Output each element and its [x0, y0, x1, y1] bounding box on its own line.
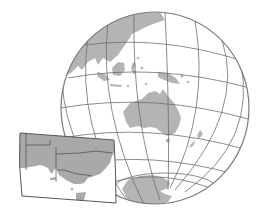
inset-land-tasmania: [76, 192, 86, 203]
locator-map: Orthographic globe centered on Australia…: [0, 0, 266, 218]
map-canvas: [0, 0, 266, 218]
inset-map: [18, 130, 116, 203]
